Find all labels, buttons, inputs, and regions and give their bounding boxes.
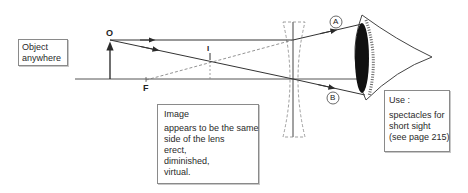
- image-box-line: diminished,: [164, 156, 258, 167]
- use-box-title: Use :: [389, 95, 449, 106]
- object-info-box: Object anywhere: [18, 39, 68, 66]
- eye-lens: [355, 23, 369, 93]
- object-box-title: Object: [22, 42, 67, 53]
- image-box-line: side of the lens: [164, 134, 258, 145]
- image-box-line: virtual.: [164, 167, 258, 178]
- ray-a: [110, 24, 362, 40]
- use-box-line: short sight: [389, 121, 449, 132]
- use-box-line: spectacles for: [389, 110, 449, 121]
- image-box-line: erect,: [164, 145, 258, 156]
- image-box-title: Image: [164, 109, 258, 120]
- object-point-label: O: [106, 28, 113, 38]
- focal-point-label: F: [143, 83, 149, 93]
- use-info-box: Use : spectacles for short sight (see pa…: [384, 90, 450, 152]
- use-box-line: (see page 215): [389, 132, 449, 143]
- ray-a-label: A: [333, 17, 338, 26]
- object-box-line: anywhere: [22, 53, 67, 64]
- image-box-line: appears to be the same: [164, 123, 258, 134]
- image-point-label: I: [207, 44, 209, 53]
- eye: [355, 15, 432, 100]
- ray-b-label: B: [330, 93, 335, 102]
- image-info-box: Image appears to be the same side of the…: [157, 104, 259, 184]
